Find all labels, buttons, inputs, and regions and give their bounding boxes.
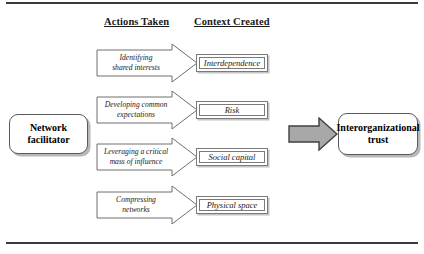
action-arrow-row-3: Leveraging a critical mass of influence — [96, 137, 198, 177]
node-network-facilitator-label: Network facilitator — [27, 122, 69, 147]
context-box-risk: Risk — [196, 101, 268, 119]
context-box-physical-space: Physical space — [196, 196, 268, 214]
context-box-interdependence-label: Interdependence — [199, 57, 265, 69]
context-box-risk-label: Risk — [199, 104, 265, 116]
column-header-actions-taken: Actions Taken — [104, 16, 169, 27]
filled-block-arrow-icon — [288, 117, 338, 151]
action-arrow-row-3-line1: Leveraging a critical — [104, 147, 168, 156]
context-box-physical-space-label: Physical space — [199, 199, 265, 211]
node-interorganizational-trust-line1: Interorganizational — [336, 122, 419, 133]
action-arrow-row-4: Compressing networks — [96, 185, 198, 225]
action-arrow-row-2-line1: Developing common — [105, 100, 168, 109]
node-network-facilitator-line2: facilitator — [27, 134, 69, 145]
action-arrow-row-1-label: Identifying shared interests — [100, 43, 172, 83]
action-arrow-row-1: Identifying shared interests — [96, 43, 198, 83]
diagram-canvas: Actions Taken Context Created Network fa… — [0, 0, 424, 254]
node-interorganizational-trust-label: Interorganizational trust — [336, 122, 419, 147]
action-arrow-row-3-line2: mass of influence — [110, 157, 163, 166]
column-header-context-created: Context Created — [194, 16, 270, 27]
context-box-interdependence: Interdependence — [196, 54, 268, 72]
action-arrow-row-2-line2: expectations — [117, 110, 155, 119]
action-arrow-row-4-line1: Compressing — [116, 195, 156, 204]
node-interorganizational-trust: Interorganizational trust — [338, 113, 418, 155]
action-arrow-row-3-label: Leveraging a critical mass of influence — [100, 137, 172, 177]
action-arrow-row-4-line2: networks — [122, 205, 149, 214]
context-box-social-capital-label: Social capital — [199, 151, 265, 163]
context-box-social-capital: Social capital — [196, 148, 268, 166]
connector-arrow-to-outcome — [288, 117, 338, 151]
node-network-facilitator: Network facilitator — [9, 114, 88, 154]
top-divider-rule — [6, 2, 418, 4]
action-arrow-row-4-label: Compressing networks — [100, 185, 172, 225]
bottom-divider-rule — [6, 242, 418, 244]
action-arrow-row-2-label: Developing common expectations — [100, 90, 172, 130]
action-arrow-row-2: Developing common expectations — [96, 90, 198, 130]
action-arrow-row-1-line2: shared interests — [112, 63, 160, 72]
action-arrow-row-1-line1: Identifying — [120, 53, 153, 62]
node-network-facilitator-line1: Network — [30, 122, 67, 133]
node-interorganizational-trust-line2: trust — [368, 134, 389, 145]
